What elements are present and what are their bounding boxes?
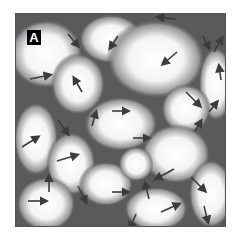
domain <box>119 147 154 182</box>
domain-pattern-graphic <box>16 14 226 227</box>
panel-label: A <box>27 30 41 45</box>
domain-regions <box>16 14 226 227</box>
domain-image-panel <box>15 13 226 227</box>
